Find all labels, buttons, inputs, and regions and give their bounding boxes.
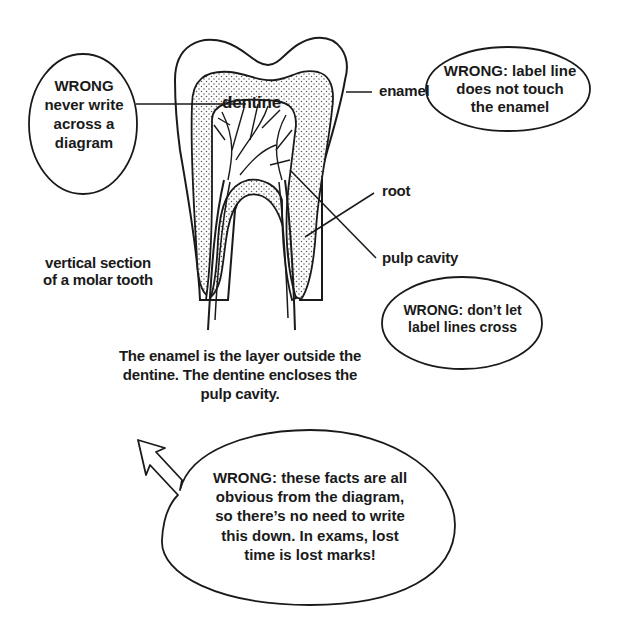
description-line-2: dentine. The dentine encloses the (110, 366, 370, 385)
label-root: root (382, 182, 410, 199)
description-line-3: pulp cavity. (110, 385, 370, 404)
callout-write-across: WRONG never write across a diagram (38, 76, 130, 152)
callout-lines-cross: WRONG: don’t let label lines cross (395, 302, 530, 336)
callout-line: WRONG: don’t let (395, 302, 530, 319)
label-pulp-cavity: pulp cavity (382, 249, 458, 266)
label-enamel: enamel (379, 82, 430, 99)
callout-line: obvious from the diagram, (180, 487, 440, 506)
callout-obvious-facts: WRONG: these facts are all obvious from … (180, 468, 440, 564)
callout-line: label lines cross (395, 319, 530, 336)
caption-line-1: vertical section (28, 254, 168, 271)
callout-line: WRONG (38, 76, 130, 95)
callout-line: WRONG: label line (440, 62, 580, 80)
callout-line: does not touch (440, 80, 580, 98)
description-line-1: The enamel is the layer outside the (110, 347, 370, 366)
callout-line: time is lost marks! (180, 545, 440, 564)
callout-line: never write (38, 95, 130, 114)
callout-label-touch: WRONG: label line does not touch the ena… (440, 62, 580, 116)
callout-line: WRONG: these facts are all (180, 468, 440, 487)
callout-line: diagram (38, 133, 130, 152)
description-paragraph: The enamel is the layer outside the dent… (110, 347, 370, 403)
callout-line: across a (38, 114, 130, 133)
callout-line: so there’s no need to write (180, 506, 440, 525)
callout-line: this down. In exams, lost (180, 526, 440, 545)
caption-line-2: of a molar tooth (28, 271, 168, 288)
label-dentine: dentine (222, 93, 281, 113)
callout-line: the enamel (440, 98, 580, 116)
caption-vertical-section: vertical section of a molar tooth (28, 254, 168, 289)
